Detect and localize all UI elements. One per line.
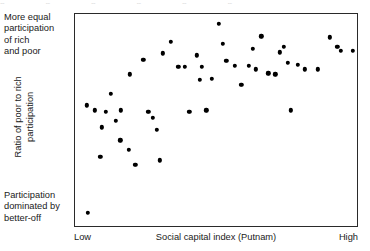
clipped-text-remnant: p p p p p p [0, 0, 370, 4]
data-point [296, 63, 299, 66]
data-point [198, 78, 201, 81]
data-point [134, 163, 137, 166]
x-axis-labels-row: Low Social capital index (Putnam) High [74, 231, 358, 247]
plot-area [74, 13, 358, 227]
data-point [278, 50, 281, 53]
data-point [274, 73, 277, 76]
data-point [93, 109, 96, 112]
data-point [100, 126, 103, 129]
data-point [109, 92, 112, 95]
data-point [118, 138, 121, 141]
data-point [286, 61, 289, 64]
data-point [217, 22, 220, 25]
data-point [210, 77, 213, 80]
data-point [328, 36, 331, 39]
data-point [247, 64, 250, 67]
y-axis-low-end-annotation: Participation dominated by better-off [4, 190, 74, 224]
data-point [205, 109, 208, 112]
data-point [200, 65, 203, 68]
data-point [316, 67, 319, 70]
data-point [85, 103, 88, 106]
data-point [339, 49, 342, 52]
data-point [169, 40, 172, 43]
x-axis-title: Social capital index (Putnam) [74, 231, 358, 243]
data-point [155, 128, 158, 131]
data-point [336, 45, 339, 48]
data-point [233, 64, 236, 67]
data-point [195, 54, 198, 57]
data-point [119, 109, 122, 112]
data-point [240, 83, 243, 86]
data-point [221, 42, 224, 45]
scatter-plot-figure: p p p p p p More equal participation of … [0, 0, 370, 251]
data-point [188, 110, 191, 113]
data-point [351, 49, 354, 52]
data-point [161, 52, 164, 55]
data-point [99, 155, 102, 158]
data-point [251, 47, 254, 50]
data-point [224, 59, 227, 62]
data-point [183, 65, 186, 68]
y-axis-title: Ratio of poor to rich participation [13, 52, 37, 182]
data-point [114, 119, 117, 122]
data-point [254, 67, 257, 70]
data-point [259, 35, 262, 38]
data-point [142, 58, 145, 61]
data-point [104, 110, 107, 113]
data-point [282, 45, 285, 48]
data-point [158, 159, 161, 162]
data-point [289, 109, 292, 112]
data-point [267, 72, 270, 75]
data-points-layer [75, 14, 357, 226]
data-point [86, 211, 89, 214]
data-point [127, 148, 130, 151]
data-point [303, 67, 306, 70]
y-axis-high-end-annotation: More equal participation of rich and poo… [4, 12, 72, 58]
x-axis-tick-high: High [339, 231, 358, 243]
data-point [147, 110, 150, 113]
data-point [151, 116, 154, 119]
data-point [128, 73, 131, 76]
data-point [177, 65, 180, 68]
